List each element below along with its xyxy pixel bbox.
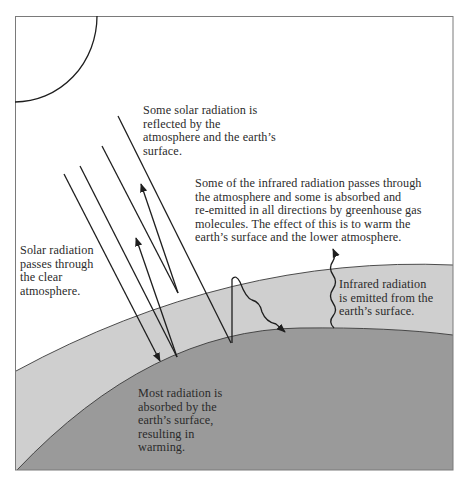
label-absorbed-surface: Most radiation is absorbed by the earth’…: [138, 387, 222, 455]
label-solar-passes: Solar radiation passes through the clear…: [20, 244, 94, 298]
sun-icon: [15, 16, 97, 102]
label-infrared-absorbed: Some of the infrared radiation passes th…: [195, 177, 422, 245]
label-infrared-emitted: Infrared radiation is emitted from the e…: [339, 278, 433, 319]
label-reflected: Some solar radiation is reflected by the…: [143, 104, 276, 158]
